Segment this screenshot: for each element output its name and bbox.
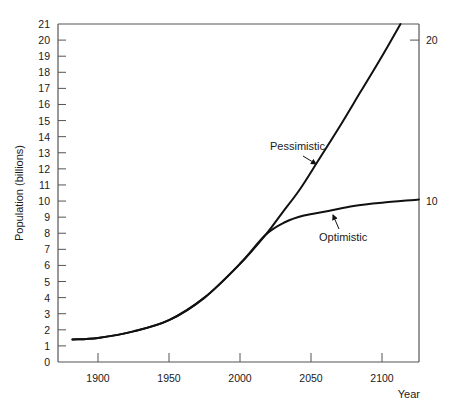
y-tick-label: 15 <box>38 115 50 127</box>
y-axis: 0123456789101112131415161718192021 <box>38 18 66 368</box>
optimistic-label: Optimistic <box>319 231 368 243</box>
y-tick-label: 13 <box>38 147 50 159</box>
plot-frame <box>58 24 419 362</box>
y-tick-label: 14 <box>38 131 50 143</box>
optimistic-arrow <box>333 215 339 229</box>
y-tick-label: 20 <box>38 34 50 46</box>
x-tick-label: 2100 <box>370 372 394 384</box>
y-tick-label: 18 <box>38 66 50 78</box>
y-tick-label: 9 <box>44 211 50 223</box>
x-tick-label: 1950 <box>157 372 181 384</box>
y-tick-label: 3 <box>44 308 50 320</box>
y-tick-label: 7 <box>44 243 50 255</box>
curves <box>72 24 418 339</box>
pessimistic-arrow <box>303 156 316 164</box>
y-tick-label: 12 <box>38 163 50 175</box>
y-tick-label: 6 <box>44 259 50 271</box>
y-tick-label: 21 <box>38 18 50 30</box>
y-tick-label: 17 <box>38 82 50 94</box>
pessimistic-label: Pessimistic <box>270 140 326 152</box>
population-chart: 0123456789101112131415161718192021 19001… <box>0 0 453 414</box>
x-tick-label: 2000 <box>228 372 252 384</box>
y-tick-label: 10 <box>38 195 50 207</box>
right-axis-label: 20 <box>426 34 438 46</box>
y-tick-label: 8 <box>44 227 50 239</box>
y-tick-label: 1 <box>44 340 50 352</box>
right-axis-label: 10 <box>426 195 438 207</box>
x-axis-title: Year <box>398 388 421 400</box>
pessimistic-curve <box>72 24 400 339</box>
y-tick-label: 4 <box>44 292 50 304</box>
x-tick-label: 2050 <box>299 372 323 384</box>
y-tick-label: 19 <box>38 50 50 62</box>
right-axis: 2010 <box>410 34 438 207</box>
optimistic-curve <box>72 199 418 339</box>
y-tick-label: 0 <box>44 356 50 368</box>
y-tick-label: 11 <box>39 179 50 191</box>
x-axis: 19001950200020502100 <box>86 353 394 384</box>
y-tick-label: 5 <box>44 276 50 288</box>
annotations: PessimisticOptimistic <box>270 140 368 243</box>
y-tick-label: 2 <box>44 324 50 336</box>
y-axis-title: Population (billions) <box>13 145 25 241</box>
y-tick-label: 16 <box>38 98 50 110</box>
x-tick-label: 1900 <box>86 372 110 384</box>
